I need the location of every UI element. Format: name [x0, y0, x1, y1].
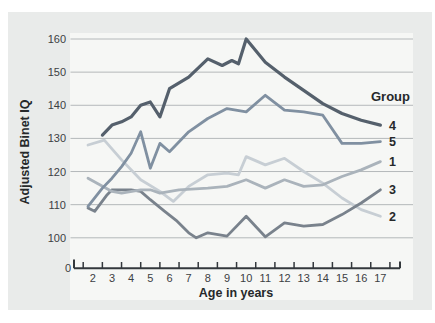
y-tick-label-120: 120 — [48, 166, 66, 178]
legend-label-group-1: 1 — [389, 155, 396, 169]
x-tick-label-9: 9 — [224, 272, 230, 284]
x-tick-label-10: 10 — [240, 272, 252, 284]
y-tick-label-100: 100 — [48, 232, 66, 244]
iq-line-chart: 1001101201301401501600234567891011121314… — [0, 0, 435, 323]
legend-label-group-5: 5 — [389, 135, 396, 149]
x-tick-label-13: 13 — [298, 272, 310, 284]
x-tick-label-5: 5 — [147, 272, 153, 284]
y-axis-title: Adjusted Binet IQ — [18, 99, 32, 204]
y-tick-label-130: 130 — [48, 132, 66, 144]
x-tick-label-8: 8 — [205, 272, 211, 284]
legend-title: Group — [371, 89, 410, 104]
legend-label-group-3: 3 — [389, 183, 396, 197]
x-tick-label-12: 12 — [278, 272, 290, 284]
x-tick-label-17: 17 — [374, 272, 386, 284]
y-tick-label-140: 140 — [48, 99, 66, 111]
legend-label-group-4: 4 — [389, 119, 396, 133]
x-axis-title: Age in years — [199, 286, 273, 300]
x-tick-label-3: 3 — [109, 272, 115, 284]
y-tick-label-150: 150 — [48, 66, 66, 78]
x-tick-label-2: 2 — [90, 272, 96, 284]
y-tick-label-110: 110 — [48, 199, 66, 211]
x-tick-label-14: 14 — [317, 272, 329, 284]
x-tick-label-4: 4 — [128, 272, 134, 284]
x-tick-label-11: 11 — [260, 272, 271, 284]
x-tick-label-16: 16 — [355, 272, 367, 284]
legend-label-group-2: 2 — [389, 210, 396, 224]
origin-label: 0 — [65, 262, 71, 274]
x-tick-label-15: 15 — [336, 272, 348, 284]
figure-page: 1001101201301401501600234567891011121314… — [0, 0, 435, 323]
y-tick-label-160: 160 — [48, 33, 66, 45]
x-tick-label-6: 6 — [166, 272, 172, 284]
x-tick-label-7: 7 — [186, 272, 192, 284]
